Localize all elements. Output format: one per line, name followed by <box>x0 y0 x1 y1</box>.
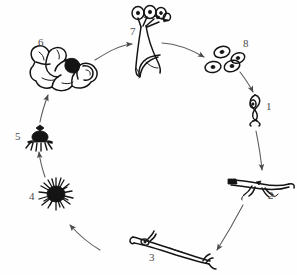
arrow-1-to-2 <box>256 131 262 170</box>
arrow-7-to-8 <box>162 43 204 57</box>
stage-2-drawing <box>228 179 294 200</box>
stage-6-drawing <box>30 46 97 91</box>
stage-8-drawing <box>204 45 246 74</box>
stage-4-drawing <box>39 178 73 210</box>
arrow-8-to-1 <box>240 72 253 92</box>
stage-label-2: 2 <box>268 190 274 201</box>
stage-5-drawing <box>26 125 52 151</box>
arrow-6-to-7 <box>95 44 132 60</box>
diagram-canvas <box>0 0 297 275</box>
stage-label-1: 1 <box>266 101 272 112</box>
stage-label-6: 6 <box>38 37 44 48</box>
arrow-4-to-5 <box>39 152 45 177</box>
cycle-arrows <box>39 43 262 250</box>
stage-3-drawing <box>130 231 216 269</box>
arrow-2-to-3 <box>217 205 243 250</box>
life-cycle-diagram: 1 2 3 4 5 6 7 8 <box>0 0 297 275</box>
stage-label-4: 4 <box>29 191 35 202</box>
stage-label-3: 3 <box>149 252 155 263</box>
arrow-3-to-4 <box>70 225 100 250</box>
stage-1-drawing <box>250 95 260 126</box>
stage-7-drawing <box>132 6 171 79</box>
arrow-5-to-6 <box>40 95 48 122</box>
stage-label-7: 7 <box>130 26 136 37</box>
stage-label-8: 8 <box>243 38 249 49</box>
stage-label-5: 5 <box>15 131 21 142</box>
